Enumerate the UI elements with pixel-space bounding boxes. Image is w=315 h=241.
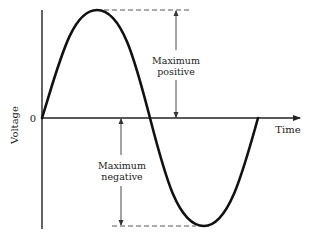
max-negative-label-line1: Maximum [98,160,146,171]
max-negative-label-line2: negative [101,171,143,182]
sine-wave-diagram: 0 Voltage Time Maximum positive Maximum … [0,0,315,241]
max-positive-label-line1: Maximum [152,55,200,66]
time-axis-label: Time [275,124,300,135]
voltage-axis-label: Voltage [9,106,20,145]
max-positive-label-line2: positive [157,66,195,77]
origin-label: 0 [30,113,36,124]
